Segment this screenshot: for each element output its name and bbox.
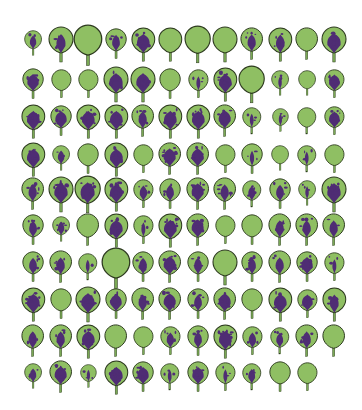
- leaf-specimen: [212, 249, 238, 287]
- leaf-specimen: [322, 213, 345, 247]
- leaf-specimen: [268, 213, 291, 247]
- leaf-specimen: [297, 107, 317, 136]
- leaf-specimen: [24, 363, 42, 390]
- leaf-specimen: [241, 251, 263, 283]
- leaf-specimen: [241, 143, 263, 175]
- leaf-specimen: [159, 68, 181, 100]
- leaf-specimen: [269, 361, 291, 393]
- leaf-specimen: [187, 251, 209, 283]
- leaf-specimen: [158, 27, 183, 63]
- leaf-specimen: [21, 104, 46, 140]
- leaf-specimen: [295, 213, 318, 247]
- leaf-specimen: [50, 288, 72, 320]
- leaf-specimen: [241, 214, 263, 246]
- leaf-specimen: [78, 69, 99, 99]
- leaf-specimen: [78, 253, 98, 282]
- leaf-specimen: [158, 213, 183, 249]
- leaf-specimen: [298, 70, 316, 97]
- leaf-specimen: [322, 287, 347, 323]
- leaf-specimen: [272, 108, 289, 133]
- leaf-specimen: [322, 324, 345, 358]
- leaf-specimen: [158, 142, 181, 176]
- leaf-specimen: [104, 324, 127, 358]
- leaf-specimen: [133, 179, 154, 209]
- leaf-specimen: [295, 324, 318, 358]
- leaf-specimen: [105, 288, 127, 320]
- leaf-specimen: [298, 180, 316, 207]
- leaf-specimen: [80, 364, 97, 389]
- leaf-specimen: [22, 251, 44, 283]
- leaf-specimen: [104, 213, 129, 249]
- leaf-specimen: [22, 214, 44, 246]
- leaf-specimen: [103, 66, 129, 104]
- leaf-specimen: [324, 69, 345, 99]
- leaf-specimen: [133, 215, 154, 245]
- leaf-specimen: [160, 363, 180, 392]
- leaf-specimen: [242, 107, 262, 136]
- leaf-grid: [0, 0, 362, 410]
- leaf-specimen: [297, 289, 318, 319]
- leaf-specimen: [22, 68, 44, 100]
- leaf-specimen: [270, 327, 290, 356]
- leaf-specimen: [133, 144, 154, 174]
- leaf-specimen: [101, 247, 131, 291]
- leaf-specimen: [21, 177, 44, 211]
- leaf-specimen: [187, 288, 209, 320]
- leaf-specimen: [104, 360, 129, 396]
- leaf-specimen: [51, 69, 72, 99]
- leaf-specimen: [186, 142, 209, 176]
- leaf-specimen: [131, 287, 154, 321]
- leaf-specimen: [296, 251, 318, 283]
- leaf-specimen: [158, 104, 183, 140]
- leaf-specimen: [324, 252, 345, 282]
- leaf-specimen: [215, 362, 236, 392]
- leaf-specimen: [158, 250, 181, 284]
- leaf-specimen: [242, 326, 263, 356]
- leaf-specimen: [242, 180, 262, 209]
- leaf-specimen: [188, 69, 209, 99]
- leaf-specimen: [213, 287, 236, 321]
- leaf-specimen: [295, 27, 318, 61]
- leaf-specimen: [105, 28, 127, 60]
- leaf-specimen: [133, 326, 154, 356]
- leaf-specimen: [131, 104, 154, 138]
- leaf-specimen: [184, 25, 211, 65]
- leaf-specimen: [268, 250, 291, 284]
- leaf-specimen: [132, 361, 154, 393]
- leaf-specimen: [187, 361, 209, 393]
- leaf-specimen: [48, 176, 74, 214]
- leaf-specimen: [268, 27, 293, 63]
- leaf-specimen: [268, 287, 293, 323]
- leaf-specimen: [186, 213, 209, 247]
- leaf-specimen: [213, 324, 238, 360]
- leaf-specimen: [240, 27, 263, 61]
- leaf-specimen: [187, 325, 209, 357]
- leaf-specimen: [48, 26, 74, 64]
- leaf-specimen: [49, 324, 72, 358]
- leaf-specimen: [77, 143, 99, 175]
- leaf-specimen: [238, 65, 265, 105]
- leaf-specimen: [49, 360, 72, 394]
- leaf-specimen: [76, 324, 101, 360]
- leaf-specimen: [73, 24, 103, 68]
- leaf-specimen: [21, 287, 46, 323]
- leaf-specimen: [75, 286, 101, 324]
- leaf-specimen: [104, 104, 129, 140]
- leaf-specimen: [160, 326, 181, 356]
- leaf-specimen: [130, 66, 156, 104]
- leaf-specimen: [321, 176, 347, 214]
- leaf-specimen: [21, 324, 44, 358]
- leaf-specimen: [241, 288, 263, 320]
- leaf-specimen: [21, 142, 46, 178]
- leaf-specimen: [321, 26, 347, 64]
- leaf-specimen: [52, 216, 70, 243]
- leaf-specimen: [52, 145, 70, 172]
- leaf-specimen: [132, 251, 154, 283]
- leaf-specimen: [213, 104, 236, 138]
- leaf-specimen: [215, 144, 236, 174]
- leaf-specimen: [271, 70, 289, 97]
- leaf-specimen: [159, 178, 181, 210]
- leaf-specimen: [131, 27, 156, 63]
- leaf-specimen: [186, 177, 209, 211]
- leaf-specimen: [242, 363, 262, 392]
